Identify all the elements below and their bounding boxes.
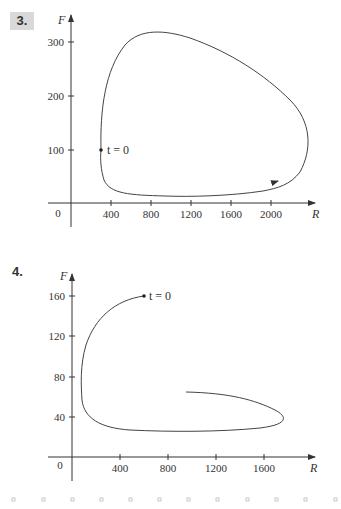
origin-label: 0	[57, 459, 63, 471]
x-axis-label: R	[311, 207, 320, 221]
xtick-400: 400	[103, 208, 120, 220]
origin-label: 0	[55, 207, 61, 219]
ytick-160: 160	[49, 290, 66, 302]
y-axis-label: F	[59, 269, 68, 283]
ytick-80: 80	[54, 371, 66, 383]
page-edge-dots	[0, 496, 341, 504]
t0-annotation: t = 0	[107, 143, 129, 157]
xtick-1200: 1200	[180, 208, 203, 220]
ytick-40: 40	[54, 411, 66, 423]
xtick-2000: 2000	[260, 208, 283, 220]
xtick-800: 800	[143, 208, 160, 220]
chart-4: 160 120 80 40 400 800 1200 1600 0 R F t …	[48, 269, 318, 481]
ytick-200: 200	[48, 90, 65, 102]
y-axis-label: F	[57, 13, 66, 27]
ytick-100: 100	[48, 144, 65, 156]
t0-annotation: t = 0	[149, 289, 171, 303]
start-point	[99, 148, 103, 152]
ytick-300: 300	[48, 36, 65, 48]
xtick-400: 400	[112, 462, 129, 474]
charts: 300 200 100 400 800 1200 1600 2000 0 R F…	[0, 0, 341, 509]
xtick-1200: 1200	[205, 462, 228, 474]
xtick-1600: 1600	[220, 208, 243, 220]
ytick-120: 120	[49, 330, 66, 342]
x-axis-label: R	[309, 461, 318, 475]
direction-arrow	[272, 181, 278, 183]
xtick-1600: 1600	[253, 462, 276, 474]
chart-3: 300 200 100 400 800 1200 1600 2000 0 R F…	[48, 13, 321, 227]
xtick-800: 800	[160, 462, 177, 474]
trajectory-4	[81, 296, 283, 431]
start-point	[142, 294, 146, 298]
trajectory-3	[101, 32, 308, 196]
